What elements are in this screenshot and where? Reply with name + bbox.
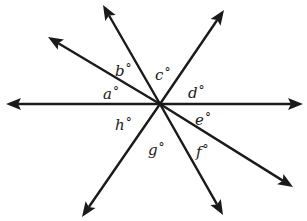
rays-group [6,5,303,217]
angle-label-g: g° [148,141,165,158]
angle-label-h: h° [115,116,132,133]
arrowhead-icon [210,199,223,215]
angle-diagram [0,0,307,221]
angle-label-b: b° [115,62,132,79]
arrowhead-icon [82,201,95,217]
angle-label-e: e° [195,111,211,128]
arrowhead-icon [277,174,293,187]
angle-label-a: a° [103,85,119,102]
arrowhead-icon [103,5,116,21]
arrowhead-icon [48,37,64,50]
ray-lower-right-shallow [160,104,282,180]
angle-label-c: c° [155,66,170,83]
angle-label-d: d° [188,84,205,101]
angle-label-f: f° [196,143,209,160]
arrowhead-icon [211,10,224,26]
